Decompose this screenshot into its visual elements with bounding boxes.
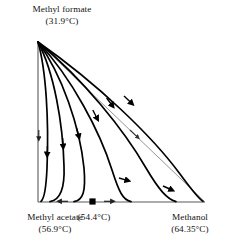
- residue-curve-1: [38, 42, 48, 201]
- vertex-temp-methanol: (64.35°C): [148, 224, 232, 236]
- arrow-curve-4-lower: [119, 178, 128, 181]
- ternary-diagram-canvas: [0, 0, 232, 245]
- residue-curve-2: [38, 42, 64, 202]
- residue-curve-3: [38, 42, 85, 202]
- arrow-curve-6: [124, 96, 132, 104]
- arrow-curve-4-upper: [93, 110, 98, 119]
- arrow-curve-2: [63, 138, 64, 147]
- arrow-curve-5-lower: [163, 186, 172, 190]
- azeotrope-temp: (54.4°C): [62, 212, 126, 224]
- vertex-name-methyl-formate: Methyl formate: [0, 4, 124, 16]
- azeotrope-label: (54.4°C): [62, 212, 126, 224]
- arrow-hypotenuse: [130, 130, 138, 138]
- azeotrope-square-marker: [89, 198, 95, 204]
- vertex-temp-methyl-formate: (31.9°C): [0, 16, 124, 28]
- vertex-temp-methyl-acetate: (56.9°C): [0, 224, 110, 236]
- vertex-label-methyl-formate: Methyl formate (31.9°C): [0, 4, 124, 27]
- vertex-name-methanol: Methanol: [148, 212, 232, 224]
- residue-curve-map-figure: Methyl formate (31.9°C) Methyl acetate (…: [0, 0, 232, 245]
- vertex-label-methanol: Methanol (64.35°C): [148, 212, 232, 235]
